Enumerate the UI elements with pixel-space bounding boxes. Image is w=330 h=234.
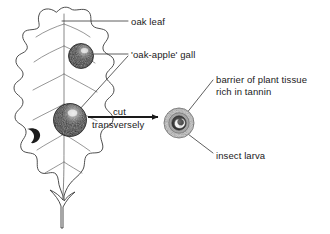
label-barrier-line-1: barrier of plant tissue bbox=[216, 74, 307, 85]
label-transversely: transversely bbox=[92, 119, 144, 131]
leader-barrier bbox=[186, 80, 213, 114]
label-oak-leaf: oak leaf bbox=[131, 16, 165, 28]
label-oak-apple-gall: 'oak-apple' gall bbox=[131, 49, 195, 61]
gall-lower bbox=[54, 104, 87, 137]
gall-upper bbox=[69, 44, 94, 69]
label-insect-larva: insect larva bbox=[216, 150, 265, 162]
label-cut: cut bbox=[113, 106, 126, 118]
label-barrier-of-plant-tissue: barrier of plant tissuerich in tannin bbox=[216, 74, 307, 97]
gall-cross-section bbox=[164, 108, 194, 138]
larva-head-dot bbox=[179, 126, 181, 128]
diagram-illustration bbox=[0, 0, 330, 234]
diagram-canvas: oak leaf 'oak-apple' gall barrier of pla… bbox=[0, 0, 330, 234]
label-barrier-line-2: rich in tannin bbox=[216, 86, 271, 97]
